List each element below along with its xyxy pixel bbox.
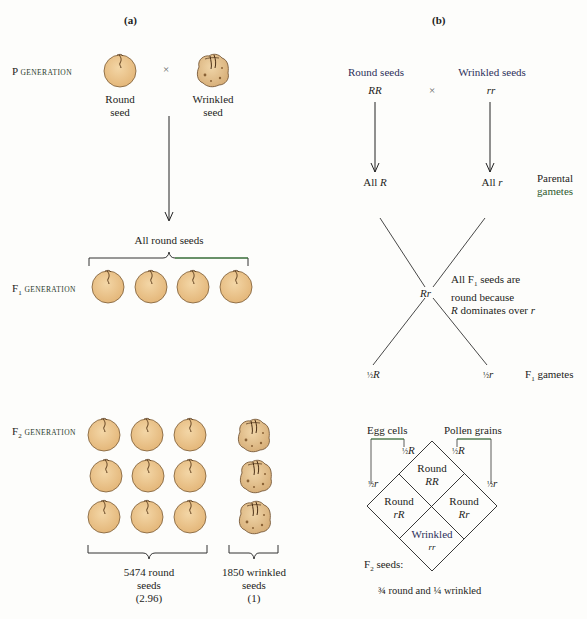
all-R-text: All (363, 176, 377, 188)
f2-suffix: generation (24, 428, 76, 437)
f1-genotype: Rr (420, 287, 431, 300)
genotype: RR (410, 475, 454, 488)
f1-gametes-label: F1 gametes (525, 368, 573, 386)
f1-sub: 1 (18, 289, 22, 297)
p-generation-label: P generation (12, 65, 72, 79)
wrinkled-seeds-label: Wrinkled seeds (450, 66, 534, 79)
f2-wrinkled-count: 1850 wrinkled seeds (1) (218, 566, 290, 605)
genotype: rR (377, 508, 421, 521)
allele: R (373, 368, 380, 380)
f2-wrinkled-ratio: (1) (218, 592, 290, 605)
f2-generation-label: F2 generation (12, 425, 76, 443)
allele: r (374, 477, 378, 489)
f1-caption: All round seeds (119, 234, 219, 247)
all-r-allele: r (498, 176, 502, 188)
round-seed-icon (104, 54, 136, 87)
parental-line2: gametes (537, 185, 573, 198)
allele: R (458, 444, 465, 456)
punnett-cell-right: Round Rr (442, 495, 486, 521)
pollen-R: ½R (452, 444, 465, 458)
pollen-r: ½r (487, 477, 497, 491)
f1-gamete-R: ½R (367, 368, 380, 382)
allele: r (493, 477, 497, 489)
gamete-all-R: All R (355, 176, 395, 189)
punnett-cell-top: Round RR (410, 462, 454, 488)
parent-round-line2: seed (95, 106, 145, 119)
f2-sub: 2 (18, 432, 22, 440)
parent-wrinkled-line2: seed (183, 106, 243, 119)
wrinkled-seed-icon (197, 54, 228, 86)
parental-line1: Parental (537, 172, 573, 185)
f2-round-line1: 5474 round (114, 566, 184, 579)
p-generation-suffix: generation (20, 68, 72, 77)
genotype: Rr (442, 508, 486, 521)
note-line3: R dominates over r (451, 304, 535, 317)
note-line1: All F1 seeds are (451, 273, 535, 291)
f2-ratio: ¾ round and ¼ wrinkled (378, 584, 481, 597)
all-R-allele: R (380, 176, 387, 188)
cross-symbol-a: × (158, 63, 174, 76)
genotype: rr (405, 541, 459, 554)
note-line2: round because (451, 291, 535, 304)
f2-seeds-label: F2 seeds: (364, 558, 403, 576)
genotype-rr: rr (476, 84, 506, 97)
phenotype: Round (377, 495, 421, 508)
f1-dominance-note: All F1 seeds are round because R dominat… (451, 273, 535, 317)
genotype-RR: RR (360, 84, 390, 97)
egg-r: ½r (368, 477, 378, 491)
punnett-cell-bottom: Wrinkled rr (405, 528, 459, 554)
punnett-cell-left: Round rR (377, 495, 421, 521)
f2-wrinkled-line2: seeds (218, 579, 290, 592)
note-pre: All F (451, 273, 474, 285)
pollen-grains-label: Pollen grains (444, 424, 502, 437)
cross-symbol-b: × (424, 84, 440, 97)
parent-wrinkled-line1: Wrinkled (183, 93, 243, 106)
parent-round-line1: Round (95, 93, 145, 106)
p-generation-prefix: P (12, 65, 18, 77)
f2-round-count: 5474 round seeds (2.96) (114, 566, 184, 605)
allele: R (408, 444, 415, 456)
parental-gametes-label: Parental gametes (537, 172, 573, 198)
f2-round-line2: seeds (114, 579, 184, 592)
egg-cells-label: Egg cells (367, 424, 408, 437)
parent-wrinkled-label: Wrinkled seed (183, 93, 243, 119)
suffix: seeds: (374, 558, 404, 570)
panel-a-label: (a) (124, 14, 137, 27)
parent-round-label: Round seed (95, 93, 145, 119)
f1-gamete-r: ½r (483, 368, 493, 382)
gamete-all-r: All r (472, 176, 512, 189)
note-allele-R: R (451, 304, 458, 316)
all-r-text: All (481, 176, 495, 188)
phenotype: Round (410, 462, 454, 475)
round-seeds-label: Round seeds (340, 66, 412, 79)
f2-round-ratio: (2.96) (114, 592, 184, 605)
f1-suffix: generation (24, 285, 76, 294)
f2-wrinkled-line1: 1850 wrinkled (218, 566, 290, 579)
note-allele-r: r (531, 304, 535, 316)
panel-b-label: (b) (432, 14, 445, 27)
allele: r (489, 368, 493, 380)
note-post: seeds are (477, 273, 520, 285)
suffix: gametes (535, 368, 574, 380)
phenotype: Round (442, 495, 486, 508)
note-mid: dominates over (458, 304, 531, 316)
egg-R: ½R (402, 444, 415, 458)
f1-generation-label: F1 generation (12, 282, 76, 300)
phenotype: Wrinkled (405, 528, 459, 541)
